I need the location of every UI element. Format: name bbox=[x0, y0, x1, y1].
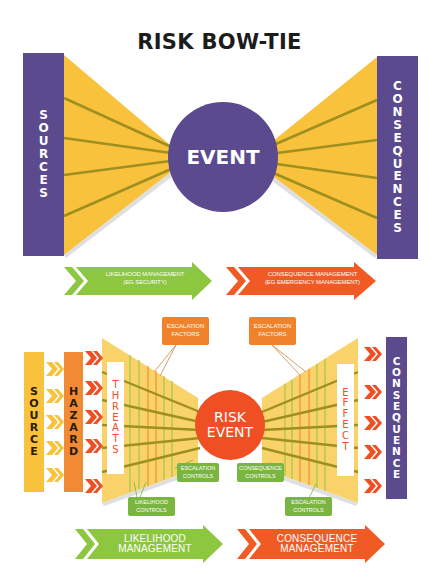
escalation-factors-left: ESCALATIONFACTORS bbox=[162, 317, 209, 345]
escalation-factors-right: ESCALATIONFACTORS bbox=[249, 317, 296, 345]
escalation-controls-left: ESCALATIONCONTROLS bbox=[177, 463, 219, 482]
event-label: EVENT bbox=[207, 425, 253, 440]
risk-event-circle: RISK EVENT bbox=[195, 390, 265, 460]
hazard-bar: HAZARD bbox=[64, 352, 83, 492]
consequence-controls: CONSEQUENCECONTROLS bbox=[237, 463, 284, 482]
likelihood-controls: LIKELIHOODCONTROLS bbox=[128, 497, 175, 516]
likelihood-management-big-label: LIKELIHOODMANAGEMENT bbox=[100, 534, 210, 554]
hazard-chevrons bbox=[85, 351, 103, 493]
risk-label: RISK bbox=[214, 410, 246, 425]
threats-box: THREATS bbox=[107, 362, 124, 474]
consequence-bar: CONSEQUENCE bbox=[386, 337, 407, 499]
callout-lines bbox=[154, 345, 306, 376]
effect-box: EFFECT bbox=[337, 364, 354, 476]
escalation-controls-right: ESCALATIONCONTROLS bbox=[285, 497, 332, 516]
bottom-bowtie-shapes bbox=[0, 0, 439, 586]
effect-chevrons bbox=[364, 347, 382, 493]
source-chevrons bbox=[46, 362, 64, 482]
source-bar: SOURCE bbox=[24, 352, 44, 492]
consequence-management-big-label: CONSEQUENCEMANAGEMENT bbox=[262, 534, 372, 554]
